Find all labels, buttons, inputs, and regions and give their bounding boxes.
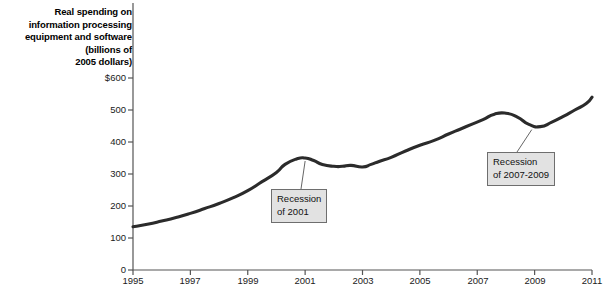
- chart-figure: Real spending on information processing …: [0, 0, 613, 295]
- annotation-recession-2001-line-2: of 2001: [277, 206, 321, 219]
- annotation-recession-2001-line-1: Recession: [277, 193, 321, 206]
- annotation-recession-2007-2009-line-1: Recession: [493, 156, 549, 169]
- annotation-recession-2007-2009: Recession of 2007-2009: [487, 152, 555, 186]
- annotation-recession-2001: Recession of 2001: [271, 189, 327, 223]
- xtick-marks: [133, 270, 592, 275]
- annotation-recession-2007-2009-line-2: of 2007-2009: [493, 169, 549, 182]
- ytick-marks: [128, 78, 133, 270]
- axis-spine: [133, 3, 592, 270]
- chart-plot-area: [0, 0, 613, 295]
